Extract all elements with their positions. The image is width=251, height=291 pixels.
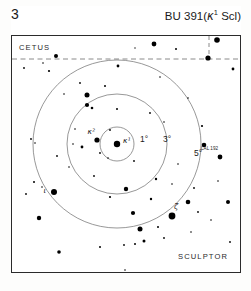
star-label-layer: κ¹κ²ιζLAL 192 xyxy=(43,127,218,211)
field-star xyxy=(131,211,135,215)
field-star xyxy=(48,70,50,72)
field-star xyxy=(72,143,74,145)
field-star xyxy=(117,65,120,68)
named-star-0 xyxy=(114,141,120,147)
field-star xyxy=(152,42,157,47)
star-label-ζ: ζ xyxy=(173,202,179,211)
star-layer xyxy=(23,37,234,272)
field-star xyxy=(34,142,36,144)
field-star xyxy=(214,37,220,43)
field-star xyxy=(190,231,192,233)
constellation-label-cetus: CETUS xyxy=(19,43,50,52)
field-star xyxy=(163,237,165,239)
named-star-4 xyxy=(218,155,223,160)
field-star xyxy=(91,107,94,110)
chart-title-constellation: Scl xyxy=(218,10,237,22)
field-star xyxy=(155,178,157,180)
field-star xyxy=(85,93,90,98)
field-star xyxy=(109,129,111,131)
field-star xyxy=(138,227,143,232)
field-star xyxy=(124,187,128,191)
field-star xyxy=(229,241,231,243)
field-star xyxy=(143,240,146,243)
page-number: 3 xyxy=(11,6,19,22)
field-star xyxy=(226,200,230,204)
chart-title-paren-close: ) xyxy=(237,10,241,22)
chart-title-star-greek: κ xyxy=(207,9,214,23)
finder-chart-page: 3 BU 391(κ1 Scl) κ¹κ²ιζLAL 192 1°3°5° CE… xyxy=(0,0,251,291)
field-star xyxy=(54,54,58,58)
radius-label-2: 5° xyxy=(194,148,202,158)
star-field-svg: κ¹κ²ιζLAL 192 1°3°5° xyxy=(12,36,240,272)
named-star-2 xyxy=(51,189,57,195)
field-star xyxy=(57,250,61,254)
field-star xyxy=(74,128,76,130)
field-star xyxy=(116,108,118,110)
field-star xyxy=(201,125,203,127)
field-star xyxy=(23,67,25,69)
field-star xyxy=(107,157,109,159)
field-star xyxy=(99,246,101,248)
field-star xyxy=(177,163,179,165)
radius-label-layer: 1°3°5° xyxy=(140,134,202,158)
star-label-ι: ι xyxy=(43,186,46,195)
field-star xyxy=(134,243,136,245)
chart-title-designation: BU 391 xyxy=(165,10,203,22)
field-star xyxy=(150,198,152,200)
field-star xyxy=(186,200,191,205)
field-star xyxy=(33,181,35,183)
field-star xyxy=(171,183,173,185)
field-star xyxy=(217,180,219,182)
radius-label-0: 1° xyxy=(140,134,148,144)
field-star xyxy=(42,62,44,64)
field-star xyxy=(123,244,125,246)
field-star xyxy=(68,166,70,168)
field-star xyxy=(149,112,151,114)
field-star xyxy=(210,219,212,221)
bottom-caption-strip xyxy=(0,283,251,291)
chart-title: BU 391(κ1 Scl) xyxy=(165,8,241,23)
field-star xyxy=(232,68,235,71)
field-star xyxy=(30,138,32,140)
named-star-3 xyxy=(169,213,176,220)
field-star xyxy=(56,155,58,157)
star-label-LAL-192: LAL 192 xyxy=(201,146,218,151)
field-star xyxy=(159,76,161,78)
field-star xyxy=(99,152,101,154)
field-star xyxy=(81,146,84,149)
field-star xyxy=(193,187,195,189)
field-star xyxy=(79,82,81,84)
field-star xyxy=(124,269,126,271)
field-star xyxy=(197,211,199,213)
sky-field: κ¹κ²ιζLAL 192 1°3°5° xyxy=(12,36,240,272)
star-label-κ²: κ² xyxy=(88,127,95,136)
star-label-κ¹: κ¹ xyxy=(123,136,130,145)
field-star xyxy=(163,121,165,123)
field-star xyxy=(134,47,135,48)
field-star xyxy=(37,216,41,220)
field-star xyxy=(109,196,111,198)
constellation-label-sculptor: SCULPTOR xyxy=(178,252,228,261)
field-star xyxy=(85,103,89,107)
field-star xyxy=(157,226,159,228)
field-star xyxy=(104,85,106,87)
field-star xyxy=(25,193,27,195)
named-star-1 xyxy=(94,137,99,142)
field-star xyxy=(133,160,135,162)
radius-label-1: 3° xyxy=(163,134,171,144)
field-star xyxy=(205,55,210,60)
field-star xyxy=(187,97,189,99)
field-star xyxy=(175,48,177,50)
field-star xyxy=(93,175,95,177)
field-star xyxy=(63,93,65,95)
